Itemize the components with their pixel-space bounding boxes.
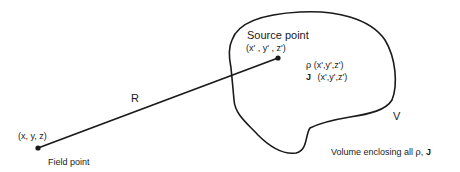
field-point-coords: (x, y, z)	[18, 131, 47, 141]
current-density-label: J (x',y',z')	[306, 72, 347, 82]
j-symbol: J	[306, 72, 311, 82]
rho-symbol: ρ	[306, 60, 311, 70]
field-point-dot	[35, 145, 40, 150]
separation-label: R	[131, 93, 139, 103]
rho-args: (x',y',z')	[314, 60, 344, 70]
charge-density-label: ρ (x',y',z')	[306, 60, 343, 70]
source-point-coords: (x' , y' , z')	[246, 43, 286, 53]
field-point-label: Field point	[48, 157, 90, 167]
volume-label: V	[393, 111, 400, 121]
diagram-canvas: (x, y, z) Field point R Source point (x'…	[0, 0, 460, 172]
j-args: (x',y',z')	[318, 72, 348, 82]
source-point-label: Source point	[247, 30, 309, 40]
volume-caption: Volume enclosing all ρ, J	[331, 147, 431, 157]
separation-line	[38, 58, 278, 148]
volume-caption-prefix: Volume enclosing all	[331, 147, 416, 157]
source-point-dot	[275, 55, 280, 60]
volume-caption-j: J	[426, 147, 431, 157]
